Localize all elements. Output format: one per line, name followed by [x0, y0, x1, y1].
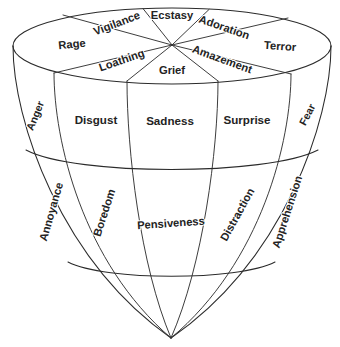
lower-band-labels: AnnoyanceBoredomPensivenessDistractionAp…	[37, 174, 304, 249]
emotion-label-terror: Terror	[264, 39, 298, 53]
emotion-label-disgust: Disgust	[75, 113, 118, 126]
emotion-label-ecstasy: Ecstasy	[151, 9, 194, 21]
emotion-label-surprise: Surprise	[223, 113, 271, 126]
emotion-label-grief: Grief	[159, 64, 185, 76]
emotion-label-adoration: Adoration	[197, 13, 251, 42]
emotion-label-anger: Anger	[24, 99, 47, 132]
emotion-label-rage: Rage	[58, 37, 86, 52]
emotion-label-amazement: Amazement	[191, 43, 254, 76]
emotion-label-loathing: Loathing	[97, 47, 146, 74]
emotion-cone-diagram: RageVigilanceEcstasyAdorationTerrorAmaze…	[0, 0, 340, 347]
emotion-label-annoyance: Annoyance	[37, 181, 65, 242]
emotion-label-apprehension: Apprehension	[270, 174, 305, 249]
emotion-label-fear: Fear	[296, 102, 317, 127]
emotion-label-vigilance: Vigilance	[92, 9, 142, 38]
emotion-label-distraction: Distraction	[218, 186, 257, 243]
label-layer: RageVigilanceEcstasyAdorationTerrorAmaze…	[0, 0, 340, 347]
emotion-label-pensiveness: Pensiveness	[137, 215, 205, 232]
top-surface-labels: RageVigilanceEcstasyAdorationTerrorAmaze…	[58, 9, 297, 76]
middle-band-labels: AngerDisgustSadnessSurpriseFear	[24, 99, 318, 132]
emotion-label-sadness: Sadness	[146, 114, 194, 127]
emotion-label-boredom: Boredom	[91, 187, 118, 237]
